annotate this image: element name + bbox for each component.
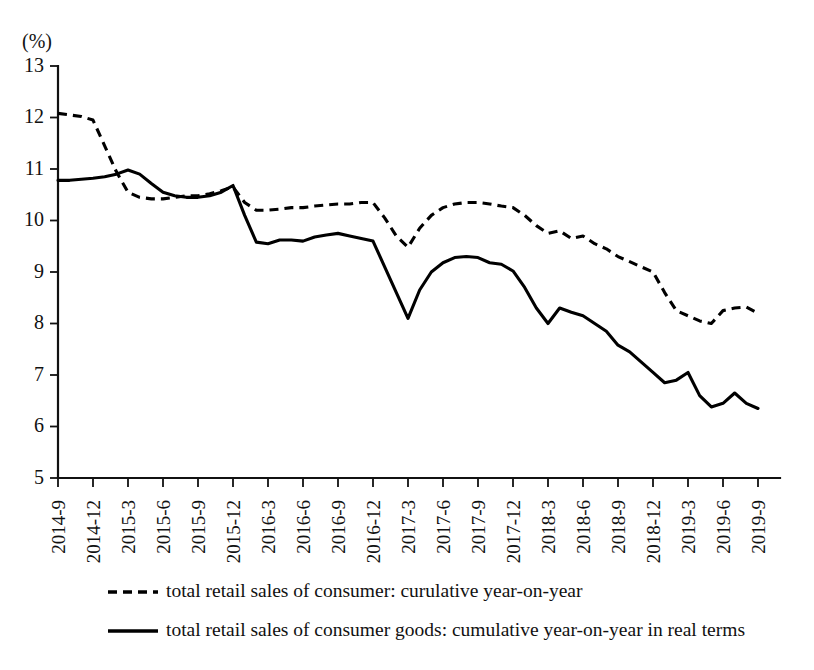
y-axis-ticks: 5678910111213	[24, 54, 58, 488]
y-tick-label: 13	[24, 54, 44, 76]
y-tick-label: 7	[34, 363, 44, 385]
y-tick-label: 12	[24, 105, 44, 127]
chart-legend: total retail sales of consumer: curulati…	[108, 580, 745, 640]
y-tick-label: 10	[24, 208, 44, 230]
x-tick-label: 2015-9	[188, 500, 209, 554]
x-tick-label: 2017-3	[398, 500, 419, 554]
x-tick-label: 2018-3	[538, 500, 559, 554]
x-axis-ticks	[58, 478, 758, 487]
x-tick-label: 2016-12	[363, 500, 384, 563]
x-tick-label: 2016-9	[328, 500, 349, 554]
x-tick-label: 2015-3	[118, 500, 139, 554]
axis-lines	[58, 66, 780, 478]
x-tick-label: 2015-6	[153, 500, 174, 554]
y-tick-label: 5	[34, 466, 44, 488]
y-tick-label: 9	[34, 260, 44, 282]
legend-label: total retail sales of consumer: curulati…	[166, 580, 583, 601]
x-tick-label: 2018-9	[608, 500, 629, 554]
series-line-dashed	[58, 113, 758, 323]
x-tick-label: 2019-6	[713, 500, 734, 554]
y-tick-label: 6	[34, 414, 44, 436]
x-tick-label: 2018-12	[643, 500, 664, 563]
chart-container: (%) 5678910111213 2014-92014-122015-3201…	[0, 0, 814, 670]
line-chart: (%) 5678910111213 2014-92014-122015-3201…	[0, 0, 814, 670]
series-line-solid	[58, 170, 758, 408]
x-tick-label: 2016-6	[293, 500, 314, 554]
x-tick-label: 2014-12	[83, 500, 104, 563]
x-tick-label: 2016-3	[258, 500, 279, 554]
x-tick-label: 2019-9	[748, 500, 769, 554]
x-tick-label: 2019-3	[678, 500, 699, 554]
x-tick-label: 2014-9	[48, 500, 69, 554]
axis-unit-label-group: (%)	[22, 30, 52, 53]
legend-label: total retail sales of consumer goods: cu…	[166, 619, 745, 640]
x-tick-label: 2015-12	[223, 500, 244, 563]
x-tick-label: 2017-6	[433, 500, 454, 554]
x-axis-labels: 2014-92014-122015-32015-62015-92015-1220…	[48, 500, 769, 563]
series-lines	[58, 113, 758, 408]
y-axis-unit-label: (%)	[22, 30, 52, 53]
y-tick-label: 11	[25, 157, 44, 179]
x-tick-label: 2017-9	[468, 500, 489, 554]
y-tick-label: 8	[34, 311, 44, 333]
x-tick-label: 2018-6	[573, 500, 594, 554]
x-tick-label: 2017-12	[503, 500, 524, 563]
